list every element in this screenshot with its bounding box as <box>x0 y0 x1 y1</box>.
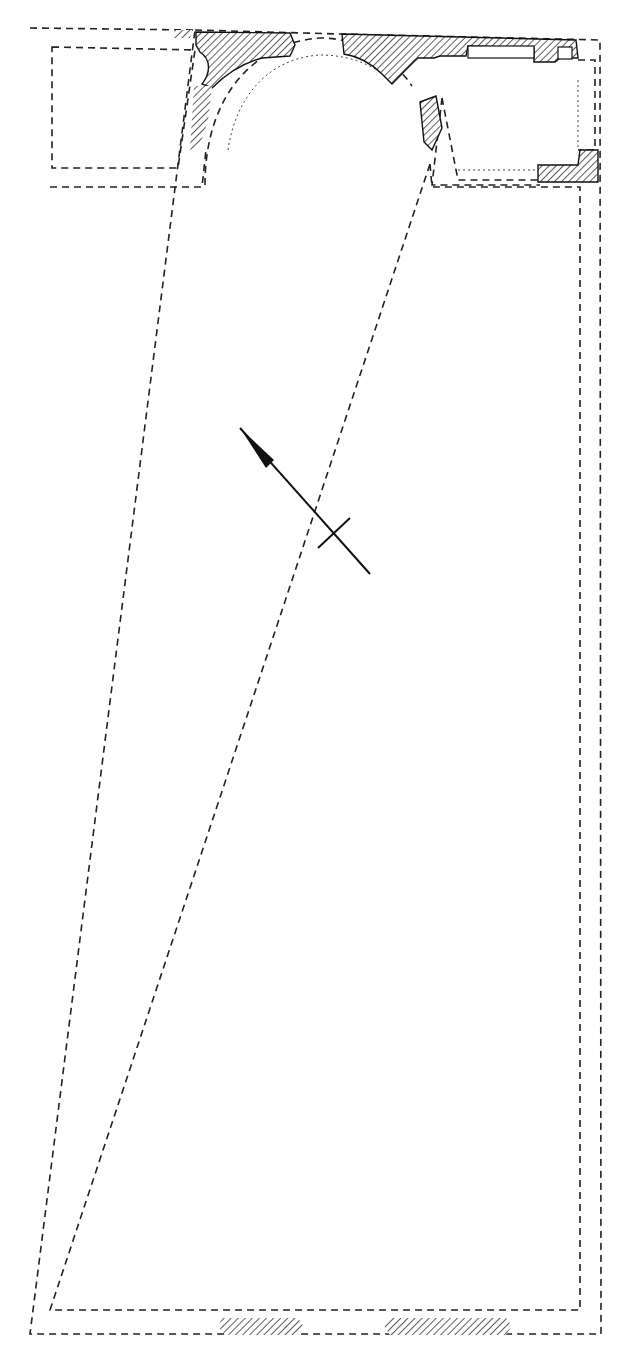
masonry-right-corner <box>538 150 598 182</box>
masonry-top-right-wall <box>342 34 578 84</box>
masonry-bottom-left <box>218 1318 304 1335</box>
small-niche-right <box>558 47 572 59</box>
inner-nave-outline <box>50 150 580 1310</box>
north-arrow-icon <box>240 428 370 574</box>
masonry-left-pier <box>196 32 295 88</box>
masonry-bottom-right <box>384 1318 512 1335</box>
masonry-fragment-tl <box>172 30 192 38</box>
right-chamber-outline <box>432 98 540 185</box>
floor-plan <box>0 0 633 1354</box>
masonry-left-strip <box>190 86 212 150</box>
window-opening-right <box>468 46 534 58</box>
left-chamber-outline <box>52 47 195 168</box>
apse-inner-arc <box>228 55 390 150</box>
masonry-right-fragment <box>420 96 442 150</box>
right-chamber-dotted <box>458 80 578 170</box>
right-chamber-dash <box>578 60 595 150</box>
outer-wall-outline <box>30 28 601 1334</box>
